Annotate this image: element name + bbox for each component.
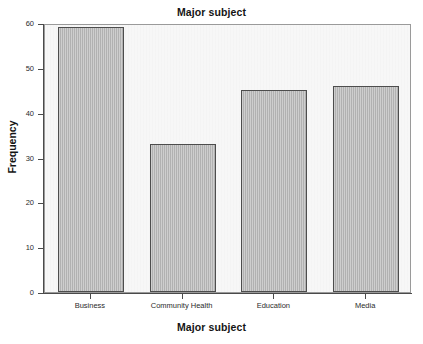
chart-title: Major subject xyxy=(0,6,423,18)
y-axis-tick xyxy=(38,114,43,115)
y-axis-tick xyxy=(38,293,43,294)
x-axis-tick xyxy=(273,294,274,299)
x-axis-title: Major subject xyxy=(0,321,423,333)
x-axis-tick xyxy=(365,294,366,299)
y-axis-tick-label: 50 xyxy=(8,65,34,73)
y-axis-tick-label: 60 xyxy=(8,20,34,28)
y-axis-tick-label: 10 xyxy=(8,244,34,252)
bar xyxy=(333,86,399,292)
y-axis-title-text: Frequency xyxy=(6,120,18,173)
y-axis-tick xyxy=(38,69,43,70)
x-axis-tick-label: Business xyxy=(44,302,136,310)
plot-area xyxy=(44,24,411,293)
y-axis-tick-label: 20 xyxy=(8,199,34,207)
bar-chart-figure: Major subject Frequency 0102030405060 Bu… xyxy=(0,0,423,344)
y-axis-tick xyxy=(38,159,43,160)
bar xyxy=(150,144,216,292)
x-axis-tick xyxy=(90,294,91,299)
y-axis-tick xyxy=(38,248,43,249)
y-axis-tick xyxy=(38,203,43,204)
x-axis-line xyxy=(43,293,412,294)
y-axis-tick xyxy=(38,24,43,25)
x-axis-tick-label: Education xyxy=(228,302,320,310)
x-axis-tick-label: Community Health xyxy=(136,302,228,310)
bar xyxy=(241,90,307,292)
y-axis-tick-label: 0 xyxy=(8,289,34,297)
y-axis-tick-label: 40 xyxy=(8,110,34,118)
x-axis-tick-label: Media xyxy=(319,302,411,310)
x-axis-tick xyxy=(182,294,183,299)
y-axis-line xyxy=(43,24,44,294)
bar xyxy=(58,27,124,292)
y-axis-tick-label: 30 xyxy=(8,155,34,163)
